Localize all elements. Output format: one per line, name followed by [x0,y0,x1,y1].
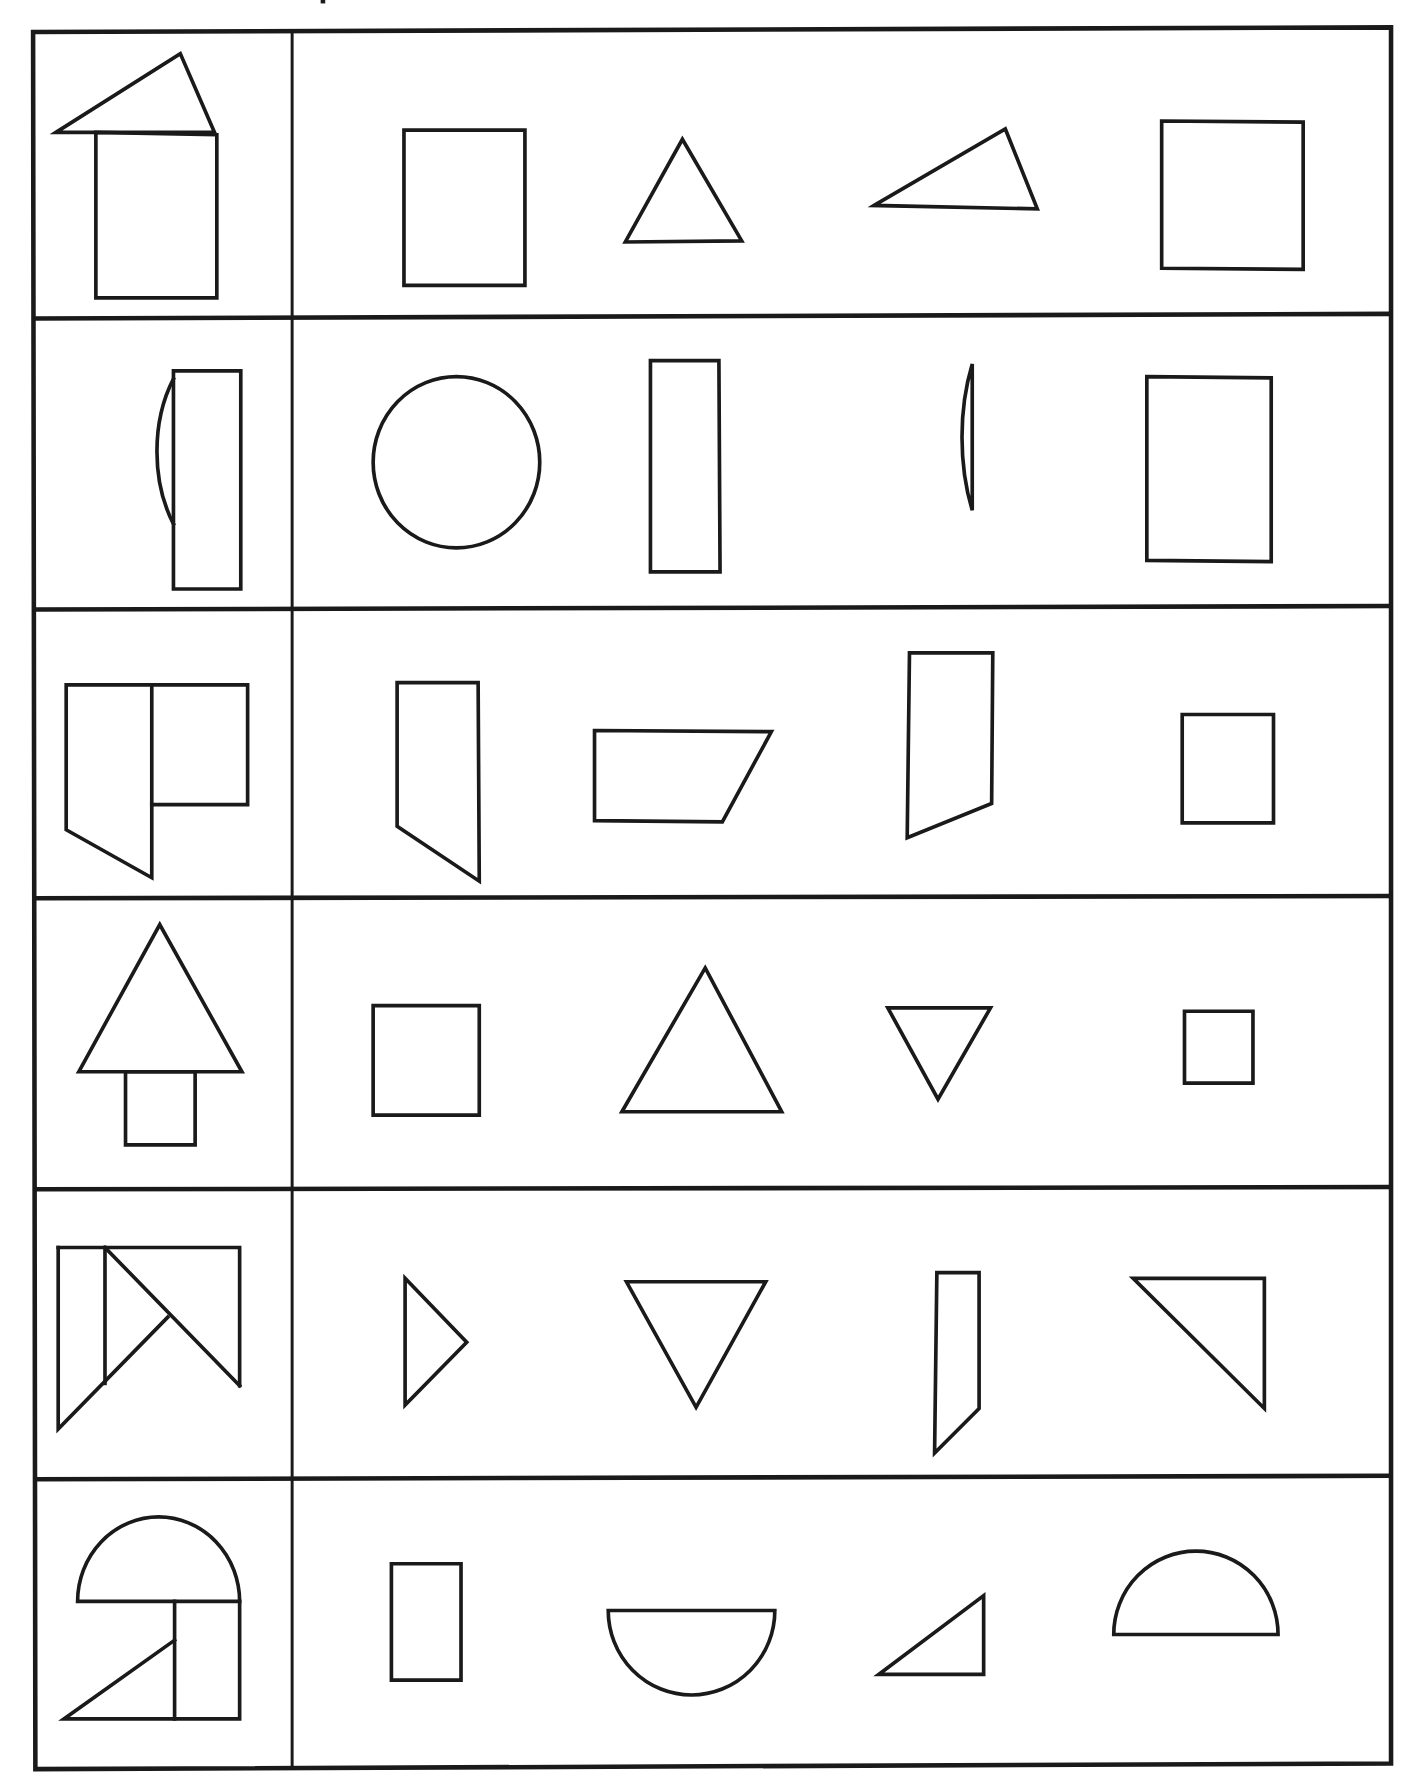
row-2 [157,361,1271,589]
row-6-target-mushroom [64,1517,240,1719]
row-3-option-2-parallelogram[interactable] [595,730,772,821]
row-6-option-2-downward-half-circle[interactable] [608,1610,775,1694]
row-3-option-1-trapezoid[interactable] [397,683,479,882]
row-6-option-4-upward-half-circle[interactable] [1114,1551,1278,1634]
row-2-option-3-half-circle[interactable] [962,364,972,510]
row-4 [79,925,1253,1145]
row-5-option-3-slanted-strip[interactable] [935,1273,980,1453]
row-3-option-4-square[interactable] [1182,715,1273,823]
row-3 [66,653,1273,881]
shape-worksheet [0,0,1415,1776]
row-2-option-2-tall-rectangle[interactable] [650,361,720,572]
row-1-target-house [56,54,217,298]
row-6-option-1-rectangle[interactable] [391,1564,461,1680]
worksheet-grid [33,27,1391,1769]
row-1-option-3-scalene-triangle[interactable] [874,129,1037,209]
row-6 [64,1517,1278,1719]
row-5 [58,1248,1264,1453]
row-3-option-3-tall-trapezoid[interactable] [907,653,993,838]
row-5-target-composite-rectangle [58,1248,239,1429]
row-1 [56,54,1303,298]
row-5-option-1-right-pointing-triangle[interactable] [405,1278,467,1405]
top-mark [321,0,326,3]
row-4-option-2-triangle[interactable] [622,968,782,1112]
row-5-option-4-right-triangle[interactable] [1133,1278,1264,1408]
row-3-target-trapezoid-rectangle [66,685,247,878]
row-2-target-half-circle-rectangle [157,371,241,589]
row-2-option-1-circle[interactable] [373,377,540,548]
row-1-option-4-rectangle[interactable] [1162,121,1304,269]
row-5-option-2-inverted-triangle[interactable] [626,1282,765,1408]
row-1-option-1-rectangle[interactable] [404,130,525,285]
row-6-option-3-right-triangle[interactable] [879,1596,984,1675]
row-4-option-3-inverted-triangle[interactable] [888,1008,991,1099]
row-4-option-1-square[interactable] [373,1006,479,1116]
row-4-target-tree [79,925,242,1145]
row-4-option-4-small-square[interactable] [1184,1011,1252,1083]
row-1-option-2-triangle[interactable] [625,139,741,242]
row-2-option-4-rectangle[interactable] [1147,377,1271,562]
